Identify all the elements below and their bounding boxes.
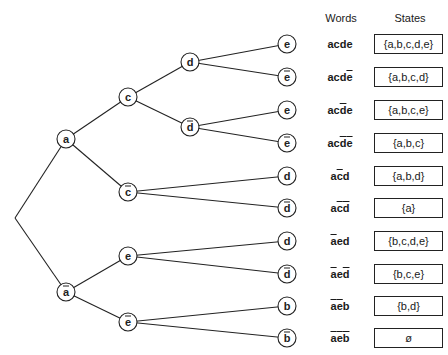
- leaf-node-d: d: [278, 167, 296, 185]
- edge: [66, 256, 128, 292]
- edge: [66, 97, 128, 139]
- tree-node-d: d: [181, 53, 199, 71]
- word-label: aeb: [310, 331, 370, 345]
- node-label: e: [284, 71, 290, 83]
- leaf-node-not-d: d: [278, 199, 296, 217]
- tree-node-e: e: [119, 247, 137, 265]
- word-label: acd: [310, 201, 370, 215]
- leaf-node-d: d: [278, 232, 296, 250]
- node-label: e: [125, 316, 131, 328]
- edge: [128, 176, 287, 192]
- tree-node-not-c: c: [119, 183, 137, 201]
- word-label: aed: [310, 267, 370, 281]
- state-box: {b,c,d,e}: [374, 231, 443, 251]
- node-label: d: [187, 121, 194, 133]
- node-label: e: [284, 38, 290, 50]
- words-header: Words: [315, 12, 367, 24]
- state-box: {a}: [374, 198, 443, 218]
- letter: b: [343, 300, 350, 312]
- negated-letter: e: [346, 71, 352, 83]
- negated-letter: d: [343, 268, 350, 280]
- node-label: e: [284, 104, 290, 116]
- state-box: {a,b,c,d}: [374, 67, 443, 87]
- edge: [15, 218, 66, 292]
- letter: d: [343, 170, 350, 182]
- edge: [190, 110, 287, 127]
- negated-letter: e: [346, 137, 352, 149]
- leaf-node-not-d: d: [278, 265, 296, 283]
- letter: e: [346, 38, 352, 50]
- word-label: acde: [310, 136, 370, 150]
- state-box: ø: [374, 328, 443, 348]
- node-label: b: [284, 332, 291, 344]
- state-box: {a,b,c,d,e}: [374, 34, 443, 54]
- edge: [15, 139, 66, 218]
- state-box: {a,b,c}: [374, 133, 443, 153]
- node-label: a: [63, 133, 70, 145]
- edge: [128, 306, 287, 322]
- leaf-node-not-e: e: [278, 68, 296, 86]
- state-box: {b,d}: [374, 296, 443, 316]
- edge: [128, 62, 190, 97]
- edge: [190, 62, 287, 77]
- word-label: aed: [310, 234, 370, 248]
- node-label: c: [125, 91, 131, 103]
- node-label: e: [125, 250, 131, 262]
- tree-node-a: a: [57, 130, 75, 148]
- node-label: d: [187, 56, 194, 68]
- word-label: aeb: [310, 299, 370, 313]
- edge: [128, 241, 287, 256]
- node-label: d: [284, 235, 291, 247]
- word-label: acde: [310, 103, 370, 117]
- tree-node-not-a: a: [57, 283, 75, 301]
- node-label: c: [125, 186, 131, 198]
- tree-node-not-d: d: [181, 118, 199, 136]
- negated-letter: b: [343, 332, 350, 344]
- leaf-node-e: e: [278, 35, 296, 53]
- leaf-node-e: e: [278, 101, 296, 119]
- state-box: {b,c,e}: [374, 264, 443, 284]
- word-label: acde: [310, 70, 370, 84]
- node-label: a: [63, 286, 70, 298]
- state-box: {a,b,c,e}: [374, 100, 443, 120]
- node-label: b: [284, 300, 291, 312]
- node-label: e: [284, 137, 290, 149]
- edge: [190, 127, 287, 143]
- letter: e: [346, 104, 352, 116]
- node-label: d: [284, 268, 291, 280]
- leaf-node-not-e: e: [278, 134, 296, 152]
- word-label: acde: [310, 37, 370, 51]
- tree-node-not-e: e: [119, 313, 137, 331]
- negated-letter: d: [343, 202, 350, 214]
- edge: [128, 256, 287, 274]
- node-label: d: [284, 170, 291, 182]
- edge: [128, 192, 287, 208]
- tree-node-c: c: [119, 88, 137, 106]
- word-label: acd: [310, 169, 370, 183]
- leaf-node-b: b: [278, 297, 296, 315]
- letter: d: [343, 235, 350, 247]
- edge: [128, 97, 190, 127]
- state-box: {a,b,d}: [374, 166, 443, 186]
- edge: [66, 292, 128, 322]
- leaf-node-not-b: b: [278, 329, 296, 347]
- edge: [128, 322, 287, 338]
- states-header: States: [378, 12, 442, 24]
- edge: [66, 139, 128, 192]
- edge: [190, 44, 287, 62]
- node-label: d: [284, 202, 291, 214]
